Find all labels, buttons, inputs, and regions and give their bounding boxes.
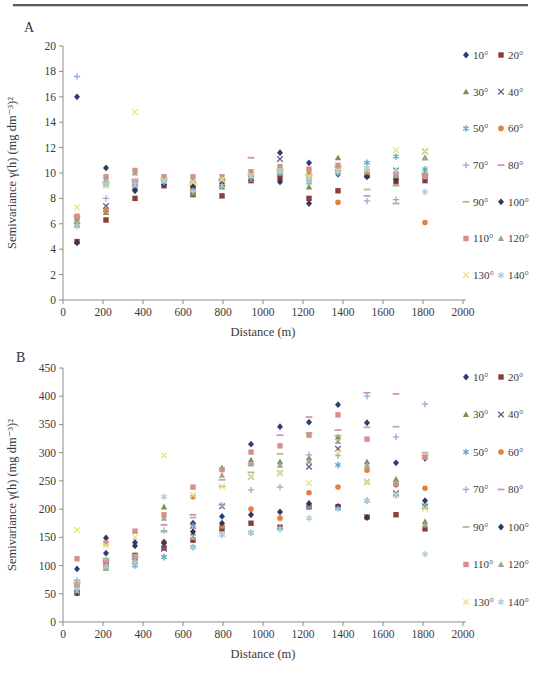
y-tick-label: 300 (39, 447, 57, 459)
data-point (306, 200, 312, 207)
legend-marker (463, 486, 469, 492)
legend-marker (498, 374, 503, 379)
data-point (277, 156, 283, 162)
data-point (364, 393, 370, 399)
y-tick-label: 50 (45, 588, 57, 600)
legend-label: 100° (508, 196, 529, 208)
data-point (364, 198, 370, 204)
data-point (364, 497, 370, 504)
legend-item: 140° (498, 596, 529, 608)
x-tick-label: 0 (60, 306, 66, 318)
legend-label: 50° (473, 122, 488, 134)
legend-label: 20° (508, 49, 523, 61)
legend-label: 60° (508, 446, 523, 458)
legend-item: 70° (463, 483, 489, 495)
legend-item: 60° (498, 122, 523, 134)
data-point (219, 502, 225, 508)
y-tick-label: 6 (50, 218, 56, 230)
data-point (364, 479, 370, 485)
legend-label: 40° (508, 86, 523, 98)
data-point (248, 474, 254, 480)
data-point (74, 527, 80, 533)
data-point (393, 434, 399, 440)
data-point (277, 149, 283, 156)
data-point (422, 551, 428, 558)
data-point (335, 199, 341, 205)
legend-marker (463, 236, 468, 241)
series-40deg (74, 446, 428, 592)
data-point (74, 73, 80, 79)
data-point (132, 196, 137, 201)
data-point (161, 493, 167, 500)
data-point (74, 213, 79, 218)
data-point (103, 550, 109, 557)
data-points (74, 73, 429, 246)
x-tick-label: 600 (174, 628, 192, 640)
data-point (277, 509, 283, 516)
x-tick-label: 2000 (452, 628, 475, 640)
legend-label: 130° (473, 269, 494, 281)
data-point (364, 467, 370, 473)
legend-label: 140° (508, 269, 529, 281)
legend-marker (463, 88, 469, 94)
data-point (219, 513, 225, 520)
legend-item: 100° (498, 196, 529, 208)
legend-item: 40° (498, 86, 523, 98)
data-point (277, 423, 283, 430)
data-point (190, 484, 195, 489)
x-tick-label: 200 (94, 628, 112, 640)
series-70deg (74, 73, 428, 204)
legend-item: 80° (498, 159, 524, 171)
legend-label: 30° (473, 86, 488, 98)
legend-label: 10° (473, 371, 488, 383)
legend-label: 130° (473, 596, 494, 608)
data-point (422, 497, 428, 504)
legend-label: 30° (473, 408, 488, 420)
legend-label: 50° (473, 446, 488, 458)
data-point (248, 449, 253, 454)
series-50deg (74, 153, 428, 222)
y-tick-label: 100 (39, 560, 57, 572)
x-tick-label: 1400 (332, 628, 355, 640)
data-point (219, 531, 225, 538)
data-points (74, 393, 429, 597)
data-point (306, 464, 312, 470)
legend-marker (463, 562, 468, 567)
legend-marker (498, 52, 503, 57)
data-point (74, 93, 80, 100)
series-20deg (74, 173, 427, 244)
legend-label: 70° (473, 483, 488, 495)
y-tick-label: 0 (50, 616, 56, 628)
legend-item: 110° (463, 558, 493, 570)
data-point (306, 490, 312, 496)
series-10deg (74, 93, 428, 214)
x-axis-title: Distance (m) (231, 647, 296, 661)
series-50deg (74, 462, 428, 592)
legend-item: 90° (463, 521, 489, 533)
data-point (422, 154, 428, 160)
legend-label: 110° (473, 558, 494, 570)
x-tick-label: 2000 (452, 306, 475, 318)
legend-marker (498, 524, 504, 531)
data-point (306, 159, 312, 166)
legend-item: 10° (463, 371, 488, 383)
y-tick-label: 4 (50, 243, 56, 255)
legend-marker (498, 272, 504, 279)
y-tick-label: 150 (39, 531, 57, 543)
data-point (74, 556, 79, 561)
legend-label: 100° (508, 521, 529, 533)
data-point (306, 184, 312, 190)
legend-marker (463, 52, 469, 59)
legend-label: 90° (473, 196, 488, 208)
data-point (161, 554, 167, 561)
x-tick-label: 1600 (372, 306, 395, 318)
data-point (306, 166, 311, 171)
legend-label: 70° (473, 159, 488, 171)
y-tick-label: 400 (39, 390, 57, 402)
legend-item: 60° (498, 446, 523, 458)
data-point (103, 540, 108, 545)
y-tick-label: 200 (39, 503, 57, 515)
legend-item: 140° (498, 269, 529, 281)
data-point (74, 204, 80, 210)
x-tick-label: 1600 (372, 628, 395, 640)
